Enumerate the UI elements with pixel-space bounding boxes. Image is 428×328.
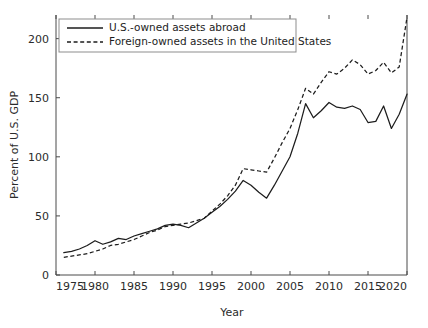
y-axis-title: Percent of U.S. GDP (8, 91, 21, 200)
y-tick-label: 100 (28, 151, 49, 164)
series-line-us-owned-assets-abroad (64, 94, 407, 252)
series-line-foreign-owned-assets-in-us (64, 17, 407, 257)
chart-legend: U.S.-owned assets abroadForeign-owned as… (59, 19, 331, 52)
axis-group: 0501001502001975198019851990199520002005… (28, 15, 407, 293)
series-group (64, 17, 407, 257)
x-tick-label: 1975 (56, 280, 84, 293)
plot-frame (56, 15, 407, 275)
y-tick-label: 0 (42, 269, 49, 282)
x-tick-label: 2015 (354, 280, 382, 293)
x-tick-label: 2020 (379, 280, 407, 293)
x-tick-label: 2010 (315, 280, 343, 293)
y-tick-label: 50 (35, 210, 49, 223)
x-tick-label: 1980 (81, 280, 109, 293)
y-tick-label: 200 (28, 33, 49, 46)
x-tick-label: 2005 (276, 280, 304, 293)
chart-figure: 0501001502001975198019851990199520002005… (0, 0, 428, 328)
legend-label: Foreign-owned assets in the United State… (109, 35, 331, 47)
x-tick-label: 1985 (120, 280, 148, 293)
x-tick-label: 1995 (198, 280, 226, 293)
x-tick-label: 2000 (237, 280, 265, 293)
y-tick-label: 150 (28, 92, 49, 105)
legend-label: U.S.-owned assets abroad (109, 21, 246, 33)
x-tick-label: 1990 (159, 280, 187, 293)
x-axis-title: Year (219, 306, 244, 319)
line-chart: 0501001502001975198019851990199520002005… (0, 0, 428, 328)
